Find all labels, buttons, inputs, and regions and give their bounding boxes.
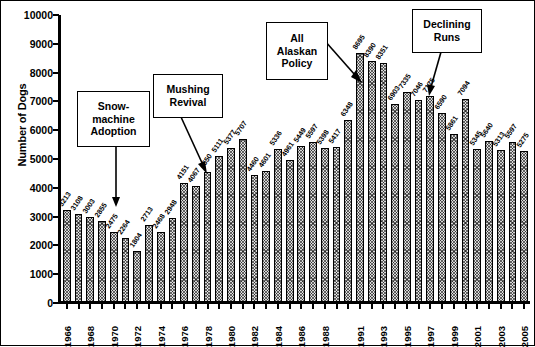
bar-value-label: 5336	[268, 129, 284, 147]
annotation-text: AllAlaskanPolicy	[277, 32, 317, 70]
bar	[110, 232, 118, 303]
bar	[368, 61, 376, 303]
bar	[192, 186, 200, 303]
annotation-arrow-all-alaskan-policy	[325, 39, 365, 89]
x-axis-tick-label: 2003	[496, 326, 507, 347]
x-axis-tick-label: 2005	[519, 326, 530, 347]
x-axis-tick-labels: 1966196819701972197419761978198019821984…	[58, 309, 530, 347]
y-axis-tick-label: 8000	[7, 67, 53, 79]
bar	[86, 217, 94, 303]
x-axis-tick-label: 1982	[249, 326, 260, 347]
y-axis-tick-mark	[53, 14, 59, 16]
bar	[333, 147, 341, 303]
y-axis-tick-labels: 0100020003000400050006000700080009000100…	[7, 15, 53, 303]
annotation-arrow-snow-machine-adoption	[109, 147, 123, 209]
x-axis-tick-label: 1974	[156, 326, 167, 347]
y-axis-tick-mark	[53, 216, 59, 218]
bar-value-label: 7094	[456, 79, 472, 97]
bar	[520, 151, 528, 303]
bar	[157, 232, 165, 303]
x-axis-tick-label: 1997	[425, 326, 436, 347]
bar	[133, 251, 141, 303]
annotation-text: Snow-machineAdoption	[90, 100, 136, 138]
y-axis-tick-label: 2000	[7, 239, 53, 251]
y-axis-tick-mark	[53, 100, 59, 102]
bar	[415, 100, 423, 303]
bar-value-label: 5597	[502, 122, 518, 140]
x-axis-tick-label: 1966	[62, 326, 73, 347]
y-axis-tick-label: 5000	[7, 153, 53, 165]
bar	[262, 171, 270, 304]
bar	[309, 142, 317, 303]
annotation-snow-machine-adoption: Snow-machineAdoption	[77, 91, 150, 147]
x-axis-tick-label: 1991	[355, 326, 366, 347]
bar-value-label: 5707	[233, 119, 249, 137]
bar	[122, 238, 130, 303]
bar-value-label: 5417	[327, 127, 343, 145]
bar-value-label: 6348	[338, 100, 354, 118]
bar	[274, 149, 282, 303]
annotation-text: MushingRevival	[166, 83, 209, 109]
bar	[204, 172, 212, 303]
annotation-declining-runs: DecliningRuns	[412, 9, 482, 53]
bar-value-label: 5275	[514, 131, 530, 149]
y-axis-tick-mark	[53, 43, 59, 45]
y-axis-tick-label: 3000	[7, 211, 53, 223]
x-axis-tick-label: 1988	[320, 326, 331, 347]
bar	[426, 96, 434, 303]
x-axis-tick-label: 1986	[296, 326, 307, 347]
y-axis-tick-label: 9000	[7, 38, 53, 50]
annotation-arrow-mushing-revival	[179, 117, 213, 175]
x-axis-tick-label: 1993	[378, 326, 389, 347]
y-axis-tick-mark	[53, 302, 59, 304]
x-axis-tick-label: 1999	[449, 326, 460, 347]
y-axis-tick-label: 10000	[7, 9, 53, 21]
bar-value-label: 7335	[397, 72, 413, 90]
bar	[75, 214, 83, 304]
bar	[462, 99, 470, 303]
bar-value-label: 2264	[116, 218, 132, 236]
x-axis-tick-label: 1968	[85, 326, 96, 347]
bar	[169, 218, 177, 303]
bar	[356, 53, 364, 303]
bar	[473, 149, 481, 303]
bar	[227, 148, 235, 303]
bar	[485, 141, 493, 303]
x-axis-tick-label: 1976	[179, 326, 190, 347]
y-axis-tick-label: 1000	[7, 268, 53, 280]
bar	[63, 210, 71, 303]
y-axis-tick-label: 7000	[7, 95, 53, 107]
bar	[321, 148, 329, 303]
bar-value-label: 5640	[479, 121, 495, 139]
x-axis-tick-label: 1978	[203, 326, 214, 347]
annotation-arrow-declining-runs	[425, 52, 447, 97]
y-axis-tick-label: 0	[7, 297, 53, 309]
y-axis-tick-mark	[53, 158, 59, 160]
bar	[98, 221, 106, 303]
x-axis-tick-label: 1972	[132, 326, 143, 347]
bar	[391, 104, 399, 303]
bar	[344, 120, 352, 303]
x-axis-tick-label: 1995	[402, 326, 413, 347]
bar-value-label: 4601	[256, 151, 272, 169]
bar	[509, 142, 517, 303]
bar	[497, 150, 505, 303]
bar	[380, 63, 388, 304]
bar	[450, 134, 458, 303]
bar	[251, 175, 259, 303]
bar-value-label: 1804	[127, 231, 143, 249]
bar	[215, 156, 223, 303]
x-axis-tick-label: 1970	[109, 326, 120, 347]
bar-value-label: 4961	[280, 140, 296, 158]
annotation-all-alaskan-policy: AllAlaskanPolicy	[266, 22, 328, 80]
x-axis-tick-label: 1984	[273, 326, 284, 347]
bar	[438, 113, 446, 303]
x-axis-tick-label: 2001	[472, 326, 483, 347]
y-axis-tick-mark	[53, 244, 59, 246]
y-axis-tick-label: 4000	[7, 182, 53, 194]
bar	[403, 92, 411, 303]
annotation-text: DecliningRuns	[423, 18, 470, 44]
bar-value-label: 2948	[162, 198, 178, 216]
bar	[145, 225, 153, 303]
